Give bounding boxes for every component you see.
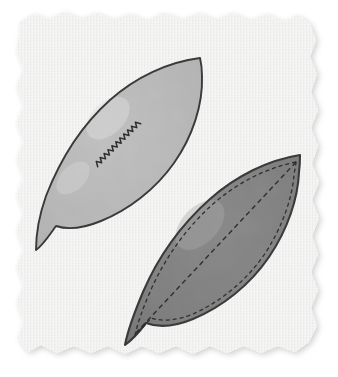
leaf-illustration-svg	[0, 0, 338, 377]
illustration-canvas: Two leaf appliqué shapes on torn fabric …	[0, 0, 338, 377]
